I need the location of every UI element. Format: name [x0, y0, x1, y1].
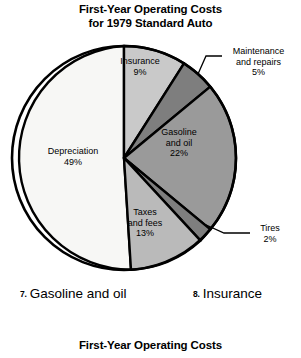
slice-label-tires: Tires 2% — [243, 223, 297, 244]
slice-label-gasoline-name-1: Gasoline — [143, 127, 215, 138]
slice-label-gasoline-name-2: and oil — [143, 138, 215, 149]
answer-item-8-number: 8. — [193, 289, 200, 299]
slice-label-taxes: Taxes and fees 13% — [112, 207, 178, 239]
slice-label-taxes-name-1: Taxes — [112, 207, 178, 218]
slice-label-insurance-pct: 9% — [108, 67, 172, 78]
answer-item-7-number: 7. — [20, 289, 27, 299]
answer-item-7: 7.Gasoline and oil — [20, 286, 127, 302]
slice-label-insurance: Insurance 9% — [108, 56, 172, 77]
slice-label-gasoline-pct: 22% — [143, 148, 215, 159]
slice-label-maintenance-pct: 5% — [216, 67, 301, 78]
page-title: First-Year Operating Costs for 1979 Stan… — [0, 3, 301, 30]
page-title-line-1: First-Year Operating Costs — [0, 3, 301, 17]
slice-label-insurance-name: Insurance — [108, 56, 172, 67]
answer-item-8: 8.Insurance — [193, 286, 262, 302]
slice-label-maintenance: Maintenance and repairs 5% — [216, 46, 301, 78]
slice-label-maintenance-name-1: Maintenance — [216, 46, 301, 57]
slice-label-depreciation-name: Depreciation — [21, 146, 125, 157]
bottom-caption: First-Year Operating Costs — [0, 338, 301, 352]
pie-chart-figure: Depreciation 49% Insurance 9% Gasoline a… — [0, 30, 301, 280]
answer-item-8-text: Insurance — [203, 286, 262, 301]
slice-label-depreciation: Depreciation 49% — [21, 146, 125, 167]
answer-item-7-text: Gasoline and oil — [30, 286, 127, 301]
slice-label-tires-name: Tires — [243, 223, 297, 234]
slice-label-maintenance-name-2: and repairs — [216, 57, 301, 68]
slice-label-tires-pct: 2% — [243, 234, 297, 245]
page-title-line-2: for 1979 Standard Auto — [0, 17, 301, 31]
slice-label-taxes-pct: 13% — [112, 228, 178, 239]
slice-label-taxes-name-2: and fees — [112, 218, 178, 229]
slice-label-depreciation-pct: 49% — [21, 157, 125, 168]
answer-row: 7.Gasoline and oil 8.Insurance — [0, 286, 301, 312]
slice-label-gasoline: Gasoline and oil 22% — [143, 127, 215, 159]
